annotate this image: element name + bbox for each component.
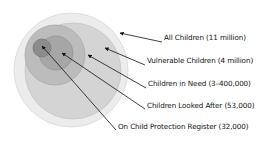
diagram-label: All Children (11 million) [164,34,246,41]
arrow-icon [120,33,162,42]
diagram-label: On Child Protection Register (32,000) [118,123,249,130]
diagram-label: Children Looked After (53,000) [147,102,254,109]
diagram-label: Children in Need (3–400,000) [148,80,251,87]
diagram-label: Vulnerable Children (4 million) [147,57,253,64]
circle-child-protection-register [33,39,51,57]
